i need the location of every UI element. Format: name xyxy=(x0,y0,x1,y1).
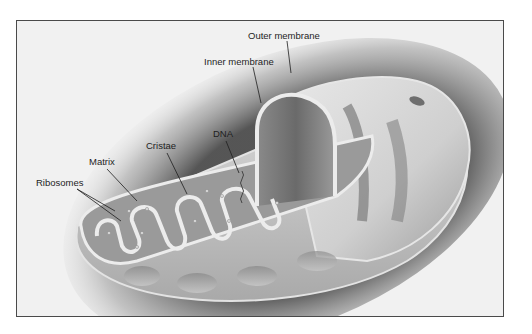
label-ribosomes: Ribosomes xyxy=(36,178,84,188)
inner-membrane-arch xyxy=(257,95,335,206)
label-inner-membrane: Inner membrane xyxy=(204,57,274,67)
label-outer-membrane: Outer membrane xyxy=(248,31,320,41)
label-dna: DNA xyxy=(213,129,233,139)
diagram-frame: Outer membrane Inner membrane DNA Crista… xyxy=(16,20,504,317)
label-matrix: Matrix xyxy=(89,157,115,167)
label-cristae: Cristae xyxy=(146,141,176,151)
